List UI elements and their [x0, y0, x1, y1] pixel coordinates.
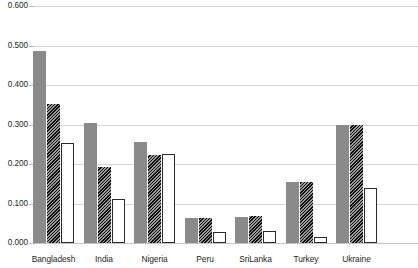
bar-group	[235, 25, 286, 243]
bar-series-1	[235, 217, 248, 243]
bar-series-2	[350, 125, 363, 243]
bar-series-2	[249, 216, 262, 243]
y-axis-tick-label: 0.100	[0, 200, 28, 208]
bar-series-2	[98, 167, 111, 243]
bar-group	[336, 25, 387, 243]
bar-set	[33, 25, 74, 243]
bar-series-1	[33, 51, 46, 243]
bar-series-2	[47, 104, 60, 243]
bar-set	[185, 25, 226, 243]
y-axis-tick-label: 0.300	[0, 121, 28, 129]
gridline	[32, 243, 418, 244]
y-axis-tick-mark	[29, 243, 34, 244]
bar-series-3	[364, 188, 377, 243]
bar-series-2	[148, 155, 161, 243]
bar-group	[286, 25, 337, 243]
bar-series-2	[300, 182, 313, 243]
bar-series-3	[314, 237, 327, 243]
bar-set	[286, 25, 327, 243]
bar-series-3	[61, 143, 74, 243]
bar-group	[33, 25, 84, 243]
bar-set	[134, 25, 175, 243]
y-axis-tick-mark	[29, 6, 34, 7]
bar-series-3	[112, 199, 125, 243]
bar-set	[235, 25, 276, 243]
bar-group	[84, 25, 135, 243]
bar-set	[84, 25, 125, 243]
bar-series-1	[336, 125, 349, 243]
y-axis-tick-label: 0.000	[0, 239, 28, 247]
bar-series-3	[263, 231, 276, 243]
bar-series-1	[286, 182, 299, 243]
x-axis-category-label: Ukraine	[324, 254, 389, 264]
bar-series-3	[213, 232, 226, 243]
bar-series-1	[84, 123, 97, 243]
bar-series-3	[162, 154, 175, 243]
bar-group	[134, 25, 185, 243]
bar-chart: 0.6000.5000.4000.3000.2000.1000.000 Bang…	[0, 0, 418, 268]
y-axis-tick-label: 0.500	[0, 42, 28, 50]
y-axis-tick-label: 0.200	[0, 160, 28, 168]
y-axis-tick-label: 0.600	[0, 2, 28, 10]
bar-series-1	[185, 218, 198, 243]
bar-series-2	[199, 218, 212, 243]
gridline	[32, 6, 418, 7]
bar-set	[336, 25, 377, 243]
bar-series-1	[134, 142, 147, 243]
bar-group	[185, 25, 236, 243]
y-axis-tick-label: 0.400	[0, 81, 28, 89]
